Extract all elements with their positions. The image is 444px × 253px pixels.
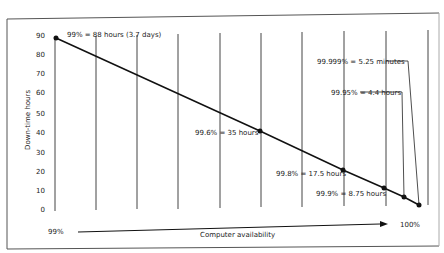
arrow-head-icon — [380, 221, 388, 227]
svg-text:40: 40 — [36, 129, 45, 137]
svg-text:50: 50 — [36, 110, 45, 118]
annotations: 99% = 88 hours (3.7 days) 99.6% = 35 hou… — [67, 31, 405, 198]
svg-text:70: 70 — [36, 70, 45, 78]
svg-text:10: 10 — [36, 187, 45, 195]
annotation-99-8: 99.8% = 17.5 hours — [276, 170, 346, 178]
x-end-label: 100% — [400, 221, 420, 229]
x-start-label: 99% — [48, 228, 64, 236]
frame-bottom — [7, 246, 439, 249]
frame-top — [7, 13, 439, 19]
annotation-99-9: 99.9% = 8.75 hours — [316, 190, 386, 198]
availability-chart: 90 80 70 60 50 40 30 20 10 0 Down-time h… — [0, 0, 444, 253]
annotation-leaders — [360, 61, 419, 205]
annotation-99-999: 99.999% = 5.25 minutes — [317, 58, 405, 66]
y-axis-label: Down-time hours — [24, 90, 32, 150]
annotation-99-6: 99.6% = 35 hours — [195, 129, 259, 137]
svg-text:90: 90 — [36, 32, 45, 40]
annotation-99: 99% = 88 hours (3.7 days) — [67, 31, 162, 39]
svg-text:30: 30 — [36, 149, 45, 157]
x-axis-label: Computer availability — [200, 231, 275, 239]
annotation-99-95: 99.95% = 4.4 hours — [331, 89, 401, 97]
svg-text:60: 60 — [36, 89, 45, 97]
svg-text:20: 20 — [36, 168, 45, 176]
svg-text:0: 0 — [41, 206, 45, 214]
y-tick-labels: 90 80 70 60 50 40 30 20 10 0 — [36, 32, 45, 214]
svg-text:80: 80 — [36, 51, 45, 59]
